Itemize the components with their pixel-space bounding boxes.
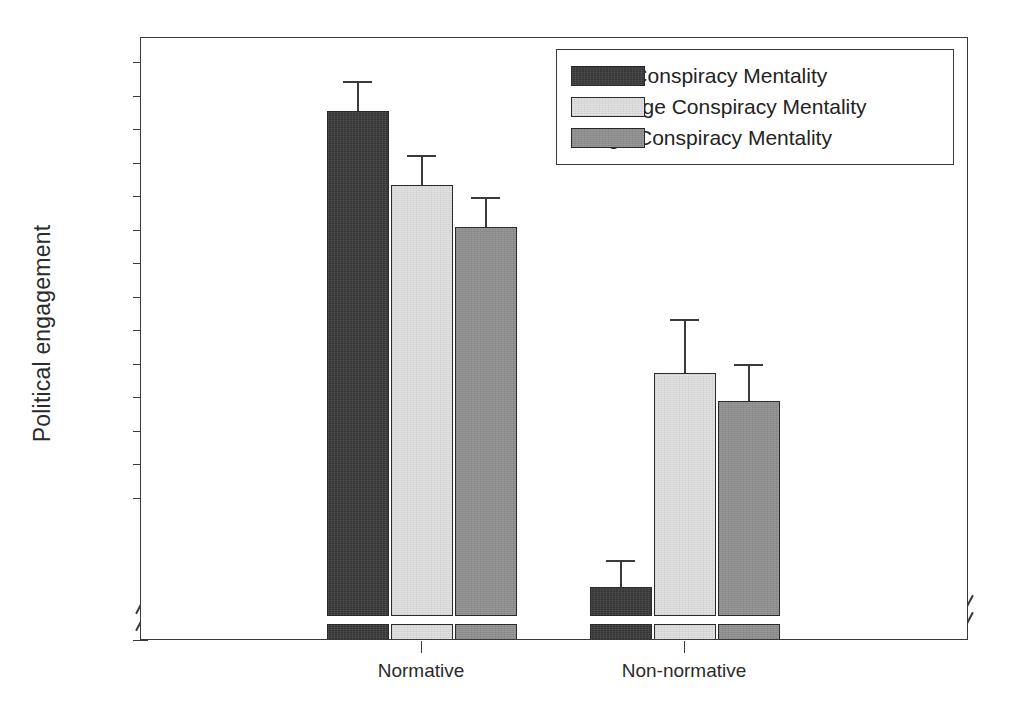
y-axis-title: Political engagement (29, 184, 56, 484)
errorbar-stem-nonnormative-low (620, 560, 622, 587)
errorbar-cap-normative-high (471, 197, 500, 199)
errorbar-cap-nonnormative-low (606, 560, 635, 562)
x-tick-mark-non-normative (684, 641, 685, 653)
legend-swatch-high (571, 128, 645, 148)
legend-swatch-low (571, 66, 645, 86)
errorbar-cap-nonnormative-average (670, 319, 699, 321)
errorbar-stem-normative-low (357, 81, 359, 111)
legend-item-average[interactable]: Average Conspiracy Mentality (571, 91, 939, 122)
errorbar-stem-normative-average (421, 155, 423, 185)
errorbar-cap-normative-low (343, 81, 372, 83)
bar-stub-nonnormative-average (654, 624, 716, 639)
errorbar-stem-nonnormative-high (748, 364, 750, 401)
bar-stub-nonnormative-low (590, 624, 652, 639)
y-tick-mark-1-0 (133, 640, 148, 641)
bar-nonnormative-low[interactable] (590, 587, 652, 616)
bar-normative-average[interactable] (391, 185, 453, 616)
bar-normative-low[interactable] (327, 111, 389, 616)
errorbar-stem-normative-high (485, 197, 487, 227)
bar-nonnormative-high[interactable] (718, 401, 780, 616)
x-tick-label-non-normative: Non-normative (622, 660, 747, 682)
bar-stub-nonnormative-high (718, 624, 780, 639)
x-tick-label-normative: Normative (378, 660, 465, 682)
bar-stub-normative-high (455, 624, 517, 639)
legend-swatch-average (571, 97, 645, 117)
bar-stub-normative-low (327, 624, 389, 639)
bar-nonnormative-average[interactable] (654, 373, 716, 616)
legend-item-low[interactable]: Low Conspiracy Mentality (571, 60, 939, 91)
errorbar-cap-normative-average (407, 155, 436, 157)
errorbar-cap-nonnormative-high (734, 364, 763, 366)
bar-chart-figure: Political engagement 4.2 4.0 3.8 3.6 3.4… (0, 0, 1009, 712)
errorbar-stem-nonnormative-average (684, 319, 686, 373)
bar-normative-high[interactable] (455, 227, 517, 616)
bar-stub-normative-average (391, 624, 453, 639)
legend-item-high[interactable]: High Conspiracy Mentality (571, 122, 939, 153)
x-tick-mark-normative (421, 641, 422, 653)
legend: Low Conspiracy Mentality Average Conspir… (556, 49, 954, 165)
